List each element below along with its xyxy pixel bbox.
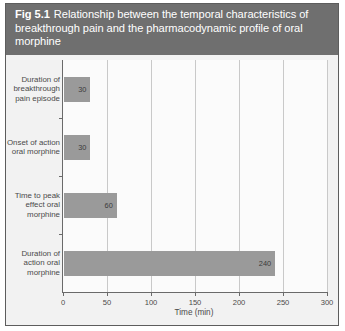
x-axis-tick-label: 50 — [103, 298, 111, 307]
y-axis-category-label: Duration of action oral morphine — [6, 249, 60, 278]
x-axis-tick-label: 150 — [189, 298, 202, 307]
bar-value-label: 60 — [105, 201, 117, 210]
y-axis-category-label: Onset of action oral morphine — [6, 138, 60, 157]
figure-number: Fig 5.1 — [15, 8, 50, 20]
figure-caption-text: Relationship between the temporal charac… — [15, 8, 308, 47]
x-axis-tick-label: 0 — [61, 298, 65, 307]
y-axis-tick — [59, 234, 63, 235]
x-axis-tick-label: 200 — [233, 298, 246, 307]
x-axis-tick — [195, 292, 196, 296]
bar-value-label: 30 — [78, 143, 90, 152]
y-axis-category-label: Time to peak effect oral morphine — [6, 191, 60, 220]
x-axis-tick — [63, 292, 64, 296]
bar: 60 — [64, 193, 117, 218]
x-axis-title: Time (min) — [62, 308, 326, 317]
x-axis-tick — [327, 292, 328, 296]
x-axis-tick — [283, 292, 284, 296]
x-axis-tick — [107, 292, 108, 296]
y-axis-tick — [59, 118, 63, 119]
bar: 240 — [64, 251, 275, 276]
figure-caption: Fig 5.1Relationship between the temporal… — [6, 4, 338, 55]
bar: 30 — [64, 77, 90, 102]
plot-area: 050100150200250300303060240 — [62, 60, 327, 293]
x-axis-tick-label: 250 — [277, 298, 290, 307]
bar-value-label: 30 — [78, 85, 90, 94]
figure-box: Fig 5.1Relationship between the temporal… — [5, 3, 339, 326]
y-axis-category-label: Duration of breakthrough pain episode — [6, 75, 60, 104]
y-axis-category-labels: Duration of breakthrough pain episodeOns… — [6, 60, 60, 292]
x-axis-tick-label: 300 — [321, 298, 334, 307]
chart-region: Duration of breakthrough pain episodeOns… — [6, 56, 339, 326]
bar: 30 — [64, 135, 90, 160]
x-axis-tick-label: 100 — [145, 298, 158, 307]
gridline — [327, 60, 328, 292]
gridline — [283, 60, 284, 292]
y-axis-tick — [59, 176, 63, 177]
x-axis-tick — [239, 292, 240, 296]
bar-value-label: 240 — [259, 259, 275, 268]
x-axis-tick — [151, 292, 152, 296]
